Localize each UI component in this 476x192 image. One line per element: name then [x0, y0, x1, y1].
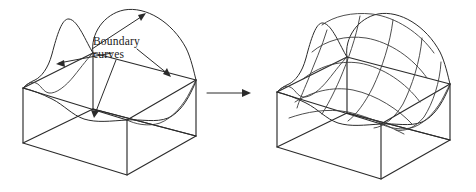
transformation-arrow: [207, 89, 251, 97]
right-panel: [277, 13, 450, 179]
right-boundary-curve-front: [277, 92, 381, 125]
right-surface-mesh-u: [297, 16, 441, 130]
right-box-vertical-edges: [277, 57, 450, 179]
right-boundary-curve-left: [277, 23, 347, 92]
figure-canvas: Boundary curves: [0, 0, 476, 192]
boundary-curves-annotation: Boundary curves: [56, 13, 171, 118]
left-boundary-curve-right: [127, 80, 196, 125]
arrowhead-right: [163, 68, 171, 77]
arrowhead-left: [56, 60, 65, 67]
left-boundary-curve-front: [23, 88, 127, 121]
leader-to-right-curve: [137, 49, 171, 77]
diagram-svg: Boundary curves: [0, 0, 476, 192]
right-boundary-curve-left-lower: [277, 57, 347, 97]
arrowhead-back: [138, 13, 146, 21]
left-box-base: [23, 109, 196, 175]
right-box-base: [277, 113, 450, 179]
transformation-arrowhead: [242, 89, 251, 97]
left-boundary-curve-left: [23, 19, 93, 93]
left-box-inner-edge: [93, 109, 196, 136]
boundary-curves-label-line2: curves: [93, 48, 125, 60]
left-panel: Boundary curves: [23, 9, 196, 175]
right-boundary-curve-back: [347, 13, 450, 84]
boundary-curves-label-line1: Boundary: [93, 35, 140, 48]
arrowhead-front: [91, 110, 99, 118]
right-box-inner-edge: [347, 113, 450, 140]
left-box-vertical-edges: [23, 53, 196, 175]
right-boundary-curves: [277, 13, 450, 128]
